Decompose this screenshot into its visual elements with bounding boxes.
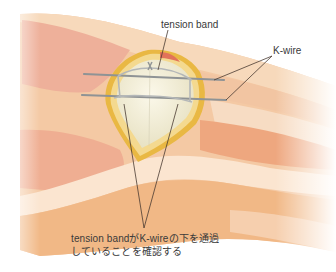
caption-line-2: していることを確認する bbox=[71, 245, 182, 258]
label-tension-band: tension band bbox=[161, 19, 218, 31]
caption-line-1: tension bandがK-wireの下を通過 bbox=[71, 232, 219, 245]
label-k-wire: K-wire bbox=[273, 45, 301, 57]
figure: tension band K-wire tension bandがK-wireの… bbox=[0, 0, 336, 272]
